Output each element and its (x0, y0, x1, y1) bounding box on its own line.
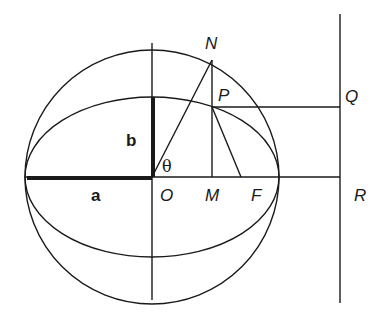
label-Q: Q (345, 87, 358, 106)
label-theta: θ (162, 157, 172, 176)
label-N: N (205, 34, 218, 53)
ellipse-diagram: N P Q b θ a O M F R (0, 0, 386, 317)
label-b: b (126, 131, 136, 150)
label-a: a (91, 186, 101, 205)
label-M: M (205, 186, 220, 205)
label-F: F (251, 186, 263, 205)
label-P: P (218, 86, 230, 105)
label-O: O (160, 186, 173, 205)
line-ON (152, 60, 212, 177)
label-R: R (354, 186, 366, 205)
